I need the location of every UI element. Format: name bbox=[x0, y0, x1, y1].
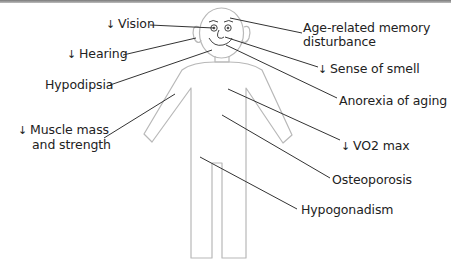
label-sense-of-smell: ↓Sense of smell bbox=[318, 62, 420, 77]
label-hearing: ↓Hearing bbox=[67, 47, 128, 62]
down-arrow-icon: ↓ bbox=[318, 63, 326, 77]
down-arrow-icon: ↓ bbox=[106, 18, 114, 32]
down-arrow-icon: ↓ bbox=[18, 124, 26, 138]
label-osteoporosis: Osteoporosis bbox=[332, 173, 412, 187]
label-vo2-max: ↓VO2 max bbox=[341, 139, 410, 154]
label-vision: ↓Vision bbox=[106, 17, 155, 32]
nose-icon bbox=[218, 30, 225, 38]
down-arrow-icon: ↓ bbox=[67, 48, 75, 62]
down-arrow-icon: ↓ bbox=[341, 140, 349, 154]
mouth-icon bbox=[209, 38, 232, 45]
label-memory-disturbance: Age-related memory disturbance bbox=[303, 21, 430, 49]
label-anorexia-of-aging: Anorexia of aging bbox=[339, 94, 447, 108]
label-hypodipsia: Hypodipsia bbox=[45, 78, 113, 92]
label-muscle-mass: ↓Muscle mass and strength bbox=[18, 123, 111, 152]
body-outline bbox=[144, 62, 292, 258]
label-hypogonadism: Hypogonadism bbox=[301, 203, 393, 217]
